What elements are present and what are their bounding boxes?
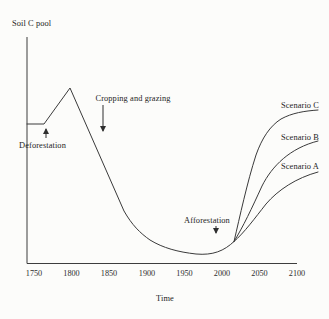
figure-canvas: Soil C pool Deforestation Cropping and g… <box>0 0 329 319</box>
scenario-b-label: Scenario B <box>281 133 319 142</box>
x-tick-1850: 1850 <box>101 269 117 278</box>
x-axis-label: Time <box>156 294 174 303</box>
historical-curve <box>27 88 234 254</box>
x-tick-1750: 1750 <box>26 269 42 278</box>
x-tick-1800: 1800 <box>63 269 79 278</box>
x-tick-2050: 2050 <box>251 269 267 278</box>
y-axis-label: Soil C pool <box>12 19 52 28</box>
x-tick-2000: 2000 <box>214 269 230 278</box>
scenario-a-curve <box>234 172 318 242</box>
scenario-c-label: Scenario C <box>281 101 319 110</box>
soil-carbon-chart: Soil C pool Deforestation Cropping and g… <box>0 0 329 319</box>
x-tick-1900: 1900 <box>139 269 155 278</box>
x-tick-2100: 2100 <box>289 269 305 278</box>
cropping-and-grazing-label: Cropping and grazing <box>95 94 171 103</box>
scenario-a-label: Scenario A <box>281 162 319 171</box>
afforestation-label: Afforestation <box>184 216 231 225</box>
deforestation-label: Deforestation <box>19 141 67 150</box>
scenario-b-curve <box>234 141 318 242</box>
x-tick-1950: 1950 <box>176 269 192 278</box>
